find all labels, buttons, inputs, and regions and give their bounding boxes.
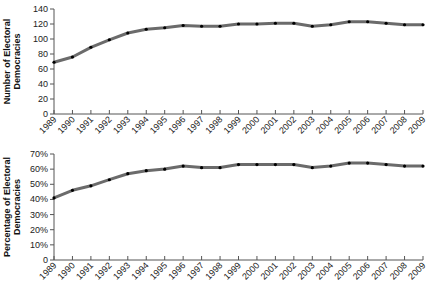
x-tick-label: 2008 [388,114,409,135]
data-point-marker [348,20,351,23]
y-tick-label: 40 [38,79,48,89]
x-tick-label: 1999 [222,114,243,135]
data-point-marker [403,165,406,168]
x-tick-label: 1995 [148,114,169,135]
data-point-marker [108,178,111,181]
data-point-marker [255,22,258,25]
data-point-marker [366,161,369,164]
y-tick-label: 10% [30,240,48,250]
x-tick-label: 2008 [388,260,409,281]
x-tick-label: 1995 [148,260,169,281]
data-point-marker [237,22,240,25]
y-tick-label: 70% [30,149,48,159]
x-tick-label: 1999 [222,260,243,281]
x-tick-label: 2004 [314,260,335,281]
data-point-marker [200,25,203,28]
x-tick-label: 1994 [129,114,150,135]
data-point-marker [52,61,55,64]
x-tick-label: 1992 [93,260,114,281]
data-point-marker [71,189,74,192]
data-point-marker [182,165,185,168]
data-point-marker [421,23,424,26]
x-tick-label: 2001 [259,114,280,135]
x-tick-label: 1991 [74,114,95,135]
x-tick-label: 2002 [277,114,298,135]
x-tick-label: 2006 [351,114,372,135]
data-point-marker [292,22,295,25]
data-point-marker [366,20,369,23]
chart-canvas: 0204060801001201401989199019911992199319… [0,0,433,281]
x-tick-label: 2009 [406,260,427,281]
x-tick-label: 1997 [185,260,206,281]
data-line [54,22,423,63]
data-point-marker [292,163,295,166]
y-tick-label: 120 [33,19,48,29]
x-tick-label: 2000 [240,114,261,135]
data-point-marker [89,184,92,187]
y-tick-label: 40% [30,194,48,204]
data-point-marker [348,161,351,164]
y-tick-label: 20 [38,94,48,104]
chart-percentage-of-democracies: 010%20%30%40%50%60%70%198919901991199219… [2,149,427,281]
x-tick-label: 1989 [37,260,58,281]
x-tick-label: 1993 [111,114,132,135]
data-point-marker [329,165,332,168]
data-point-marker [145,28,148,31]
x-tick-label: 2003 [295,114,316,135]
x-tick-label: 2005 [332,260,353,281]
x-tick-label: 1993 [111,260,132,281]
x-tick-label: 1990 [56,260,77,281]
x-tick-label: 1994 [129,260,150,281]
data-point-marker [89,46,92,49]
x-tick-label: 2000 [240,260,261,281]
y-tick-label: 60 [38,64,48,74]
data-point-marker [385,163,388,166]
data-point-marker [182,24,185,27]
data-point-marker [145,169,148,172]
x-tick-label: 2006 [351,260,372,281]
y-tick-label: 50% [30,179,48,189]
y-tick-label: 80 [38,49,48,59]
x-tick-label: 1996 [166,260,187,281]
data-point-marker [329,23,332,26]
y-tick-label: 100 [33,34,48,44]
x-tick-label: 1998 [203,260,224,281]
data-point-marker [52,196,55,199]
x-tick-label: 1989 [37,114,58,135]
data-point-marker [108,38,111,41]
x-tick-label: 2009 [406,114,427,135]
data-point-marker [385,22,388,25]
data-point-marker [255,163,258,166]
x-tick-label: 1998 [203,114,224,135]
y-axis-title: Number of ElectoralDemocracies [2,19,22,105]
x-tick-label: 2007 [369,260,390,281]
data-point-marker [126,172,129,175]
x-tick-label: 1992 [93,114,114,135]
y-tick-label: 20% [30,225,48,235]
x-tick-label: 2001 [259,260,280,281]
data-point-marker [200,166,203,169]
x-tick-label: 2003 [295,260,316,281]
x-tick-label: 2007 [369,114,390,135]
data-point-marker [403,23,406,26]
x-tick-label: 1991 [74,260,95,281]
x-tick-label: 1990 [56,114,77,135]
data-point-marker [126,31,129,34]
data-point-marker [274,163,277,166]
y-tick-label: 30% [30,210,48,220]
x-tick-label: 2002 [277,260,298,281]
data-point-marker [218,25,221,28]
x-tick-label: 1996 [166,114,187,135]
data-point-marker [71,55,74,58]
x-tick-label: 2004 [314,114,335,135]
x-tick-label: 1997 [185,114,206,135]
data-point-marker [163,26,166,29]
y-axis-title: Percentage of ElectoralDemocracies [2,157,22,257]
data-point-marker [311,25,314,28]
x-tick-label: 2005 [332,114,353,135]
y-tick-label: 60% [30,164,48,174]
y-tick-label: 140 [33,4,48,14]
data-point-marker [421,165,424,168]
data-point-marker [311,166,314,169]
data-point-marker [218,166,221,169]
